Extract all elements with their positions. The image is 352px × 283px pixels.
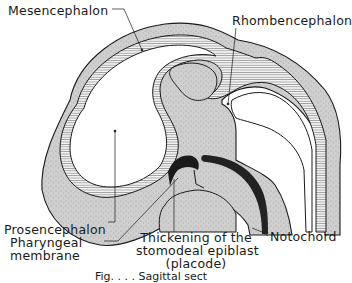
- label-thickening-line3: (placode): [136, 257, 256, 270]
- label-rhombencephalon: Rhombencephalon: [232, 14, 352, 27]
- figure-caption: Fig. . . . Sagittal sect: [95, 270, 207, 283]
- label-pharyngeal-membrane-line2: membrane: [10, 249, 80, 262]
- label-notochord: Notochord: [270, 230, 337, 243]
- label-mesencephalon: Mesencephalon: [8, 4, 108, 17]
